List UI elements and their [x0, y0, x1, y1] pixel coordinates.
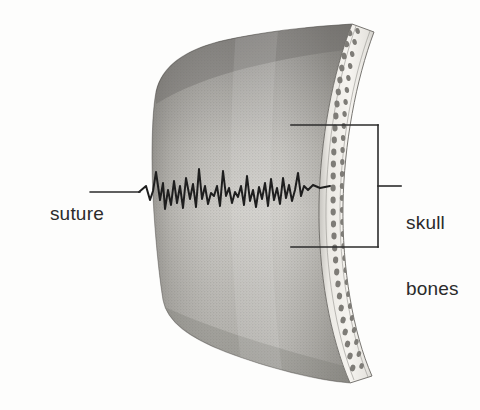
label-suture-text: suture	[50, 203, 104, 224]
label-skull-bones-line2: bones	[406, 278, 459, 300]
label-suture: suture	[28, 181, 104, 247]
label-skull-bones: skull bones	[406, 168, 459, 344]
skull-suture-figure: suture skull bones	[0, 0, 480, 410]
label-skull-bones-line1: skull	[406, 212, 459, 234]
